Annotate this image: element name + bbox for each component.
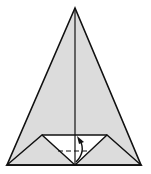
origami-diagram (0, 0, 151, 174)
